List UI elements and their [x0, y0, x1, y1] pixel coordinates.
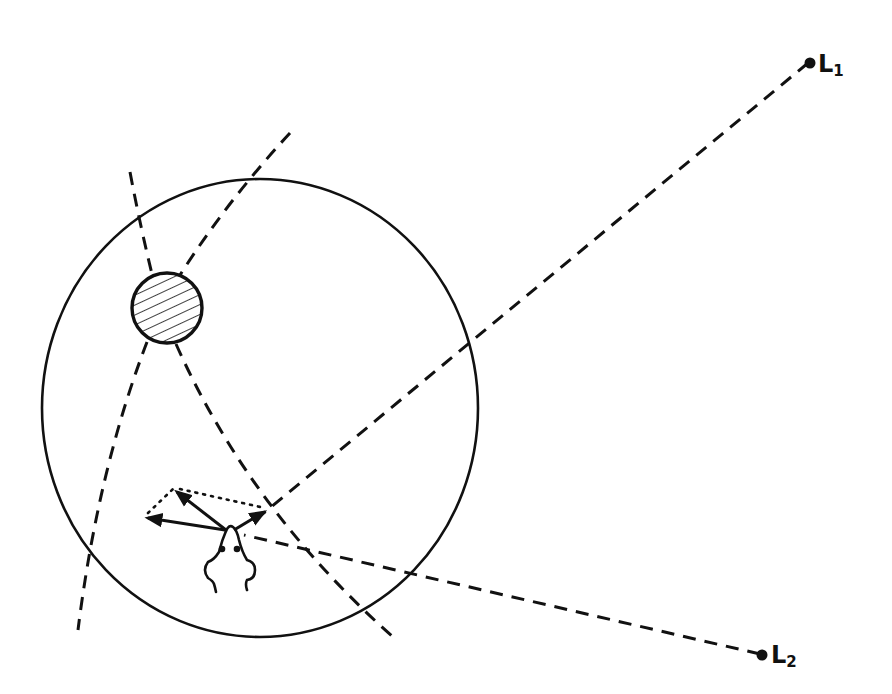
arena-circle [42, 179, 478, 637]
light-L1-label: L1 [818, 52, 844, 79]
light-L2-label: L2 [771, 643, 797, 670]
light-L2-subscript: 2 [786, 653, 796, 671]
dotted-resultant-left [148, 489, 173, 513]
light-L2-dot [757, 650, 768, 661]
light-L2-letter: L [771, 641, 786, 669]
rodent-top-view-icon [205, 526, 255, 592]
dashed-arc-right-upper [180, 133, 290, 275]
vector-right-arrow [234, 512, 264, 530]
dashed-arc-right-lower [176, 344, 392, 636]
dashed-line-to-L1 [253, 63, 808, 522]
dashed-line-to-L2 [244, 535, 760, 654]
light-L1-letter: L [818, 50, 833, 78]
light-L1-subscript: 1 [833, 62, 843, 80]
dashed-arc-left-lower [78, 342, 147, 630]
light-L1-dot [805, 58, 816, 69]
landmark-hatched-circle [132, 273, 202, 343]
diagram-canvas [0, 0, 892, 694]
